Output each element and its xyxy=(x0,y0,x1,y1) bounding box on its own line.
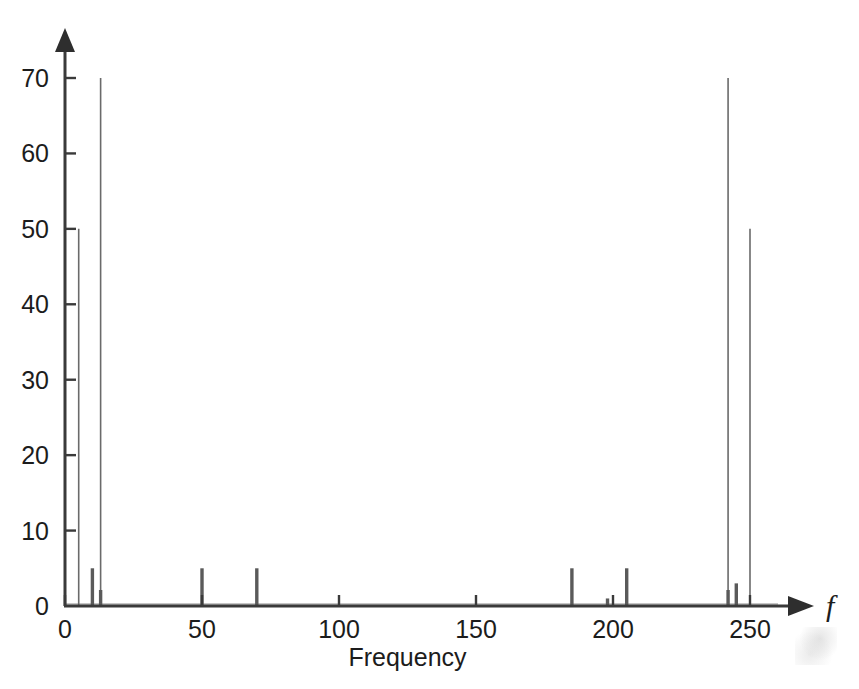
x-axis-symbol: f xyxy=(826,589,838,622)
y-tick-label: 40 xyxy=(21,290,49,318)
x-axis-ticks: 050100150200250 xyxy=(58,595,771,643)
x-tick-label: 250 xyxy=(729,615,771,643)
x-tick-label: 0 xyxy=(58,615,72,643)
y-axis-arrowhead xyxy=(55,28,75,52)
y-tick-label: 30 xyxy=(21,366,49,394)
y-tick-label: 60 xyxy=(21,139,49,167)
y-tick-label: 70 xyxy=(21,64,49,92)
x-tick-label: 100 xyxy=(318,615,360,643)
y-axis-ticks: 010203040506070 xyxy=(21,64,76,620)
x-axis-arrowhead xyxy=(788,596,814,616)
y-tick-label: 0 xyxy=(35,592,49,620)
spectrum-figure: 050100150200250 010203040506070 Frequenc… xyxy=(0,0,859,689)
x-tick-label: 200 xyxy=(592,615,634,643)
y-tick-label: 20 xyxy=(21,441,49,469)
y-tick-label: 50 xyxy=(21,215,49,243)
x-tick-label: 50 xyxy=(188,615,216,643)
y-tick-label: 10 xyxy=(21,517,49,545)
spike-series xyxy=(79,78,750,606)
x-axis-title: Frequency xyxy=(348,643,467,671)
spectrum-plot: 050100150200250 010203040506070 Frequenc… xyxy=(0,0,859,689)
x-tick-label: 150 xyxy=(455,615,497,643)
